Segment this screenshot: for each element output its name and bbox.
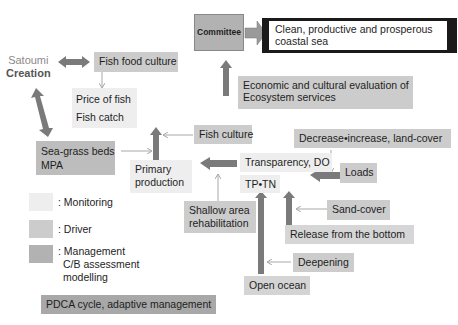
shallow-line1: Shallow area	[189, 204, 251, 217]
satoumi-creation-title: Satoumi Creation	[6, 54, 51, 80]
seagrass-mpa-box: Sea-grass beds MPA	[36, 141, 115, 175]
legend-swatch-driver	[29, 220, 53, 238]
legend-driver-label: : Driver	[58, 223, 92, 236]
transparency-label: Transparency, DO	[245, 156, 330, 168]
open-ocean-box: Open ocean	[244, 276, 310, 295]
tp-tn-box: TP•TN	[240, 175, 280, 193]
deepening-label: Deepening	[298, 256, 349, 268]
pdca-box: PDCA cycle, adaptive management	[41, 295, 216, 314]
legend-management-line3: modelling	[58, 271, 139, 284]
committee-label: Committee	[197, 26, 241, 39]
arrow-release-tptn	[283, 191, 295, 225]
land-cover-label: Decrease•increase, land-cover	[299, 132, 442, 144]
legend-swatch-management	[29, 245, 53, 263]
economic-evaluation-box: Economic and cultural evaluation of Ecos…	[238, 76, 413, 109]
sand-cover-label: Sand-cover	[332, 203, 386, 215]
goal-line2: coastal sea	[275, 35, 441, 47]
release-bottom-box: Release from the bottom	[285, 225, 414, 244]
fish-culture-box: Fish culture	[194, 125, 252, 144]
legend-management-label: : Management C/B assessment modelling	[58, 245, 139, 284]
goal-box: Clean, productive and prosperous coastal…	[262, 18, 457, 53]
arrow-openocean-tptn	[255, 191, 267, 274]
fish-market-box: Price of fish Fish catch	[72, 88, 137, 128]
primary-production-box: Primary production	[130, 160, 192, 193]
primary-line2: production	[135, 176, 187, 189]
deepening-box: Deepening	[293, 253, 354, 272]
release-bottom-label: Release from the bottom	[290, 228, 405, 240]
seagrass-line1: Sea-grass beds	[41, 144, 110, 158]
double-arrow-satoumi-fishfood	[58, 56, 90, 68]
fish-food-culture-label: Fish food culture	[99, 55, 177, 67]
double-arrow-satoumi-seagrass	[31, 88, 53, 137]
tp-tn-label: TP•TN	[245, 178, 276, 190]
legend-monitoring-label: : Monitoring	[58, 196, 113, 209]
econ-line2: Ecosystem services	[243, 91, 408, 103]
fish-food-culture-box: Fish food culture	[94, 52, 178, 72]
arrow-econ-committee	[220, 60, 232, 96]
shallow-area-box: Shallow area rehabilitation	[184, 201, 256, 233]
loads-label: Loads	[345, 166, 374, 178]
legend-management-line1: : Management	[58, 245, 139, 258]
land-cover-box: Decrease•increase, land-cover	[294, 129, 451, 148]
open-ocean-label: Open ocean	[249, 279, 306, 291]
shallow-line2: rehabilitation	[189, 217, 251, 230]
goal-line1: Clean, productive and prosperous	[275, 23, 441, 35]
seagrass-line2: MPA	[41, 158, 110, 172]
legend-swatch-monitoring	[29, 193, 53, 211]
arrow-transparency-primary	[200, 157, 237, 170]
price-of-fish-label: Price of fish	[76, 90, 133, 108]
arrow-primary-up	[150, 127, 162, 162]
fish-catch-label: Fish catch	[76, 108, 133, 126]
transparency-box: Transparency, DO	[240, 153, 332, 172]
creation-label: Creation	[6, 67, 51, 80]
committee-box: Committee	[194, 14, 244, 51]
fish-culture-label: Fish culture	[199, 128, 253, 140]
sand-cover-box: Sand-cover	[327, 200, 390, 220]
econ-line1: Economic and cultural evaluation of	[243, 79, 408, 91]
loads-box: Loads	[340, 163, 377, 183]
pdca-label: PDCA cycle, adaptive management	[46, 298, 211, 310]
satoumi-label: Satoumi	[6, 54, 51, 67]
primary-line1: Primary	[135, 163, 187, 176]
legend-management-line2: C/B assessment	[58, 258, 139, 271]
